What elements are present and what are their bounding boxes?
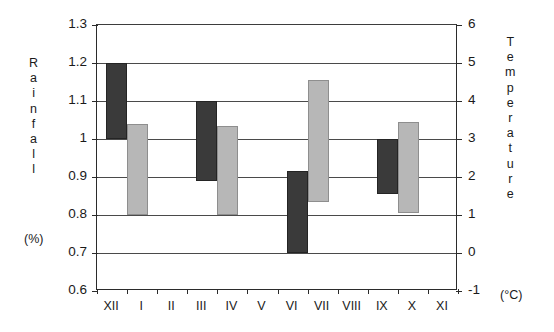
rainfall-bar: [377, 139, 398, 194]
y-axis-right-tick-label: 3: [468, 131, 508, 145]
x-axis-tick: [308, 289, 309, 294]
y-axis-left-tick-label: 0.7: [45, 245, 87, 259]
x-axis-tick: [398, 289, 399, 294]
y-axis-left-tick-label: 0.9: [45, 169, 87, 183]
y-axis-right-tick-label: -1: [468, 283, 508, 297]
y-axis-left-tick-label: 0.6: [45, 283, 87, 297]
caption-letter: r: [508, 111, 512, 126]
y-axis-left-tick: [92, 177, 98, 178]
caption-letter: r: [508, 172, 512, 187]
y-axis-right-tick-label: 1: [468, 207, 508, 221]
y-axis-right-tick: [456, 25, 462, 26]
rainfall-bar: [196, 101, 217, 181]
y-axis-left-tick: [92, 101, 98, 102]
y-axis-right-tick-label: 5: [468, 55, 508, 69]
y-axis-left-title: Rainfall: [29, 56, 38, 178]
y-axis-left-tick: [92, 139, 98, 140]
caption-letter: e: [507, 187, 514, 202]
temperature-bar: [217, 126, 238, 215]
caption-letter: f: [32, 117, 35, 132]
caption-letter: l: [32, 147, 35, 162]
y-axis-left-tick: [92, 25, 98, 26]
x-axis-tick: [217, 289, 218, 294]
temperature-bar: [308, 80, 329, 202]
rainfall-bar: [287, 171, 308, 253]
caption-letter: T: [506, 35, 514, 50]
x-axis-tick: [428, 289, 429, 294]
gridline: [97, 101, 456, 102]
x-axis-tick: [157, 289, 158, 294]
caption-letter: n: [30, 102, 37, 117]
y-axis-left-tick: [92, 253, 98, 254]
caption-letter: a: [30, 132, 37, 147]
caption-letter: a: [30, 71, 37, 86]
temperature-bar: [398, 122, 419, 213]
rainfall-bar: [106, 63, 127, 139]
y-axis-right-tick: [456, 215, 462, 216]
x-axis-tick: [338, 289, 339, 294]
gridline: [97, 253, 456, 254]
y-axis-left-tick-label: 1: [45, 131, 87, 145]
y-axis-right-tick: [456, 101, 462, 102]
rainfall-temperature-chart: Rainfall (%) Temperature (°C) 1.31.21.11…: [0, 0, 554, 332]
y-axis-left-tick-label: 1.1: [45, 93, 87, 107]
y-axis-right-tick: [456, 253, 462, 254]
caption-letter: l: [32, 162, 35, 177]
x-axis-tick: [368, 289, 369, 294]
x-axis-tick: [247, 289, 248, 294]
y-axis-right-tick: [456, 139, 462, 140]
y-axis-left-unit: (%): [24, 232, 43, 246]
y-axis-right-tick-label: 6: [468, 17, 508, 31]
y-axis-left-tick-label: 1.3: [45, 17, 87, 31]
gridline: [97, 215, 456, 216]
y-axis-right-tick-label: 0: [468, 245, 508, 259]
temperature-bar: [127, 124, 148, 215]
y-axis-left-tick-label: 1.2: [45, 55, 87, 69]
y-axis-right-tick-label: 2: [468, 169, 508, 183]
y-axis-right-tick: [456, 63, 462, 64]
y-axis-left-tick-label: 0.8: [45, 207, 87, 221]
x-axis-tick: [278, 289, 279, 294]
caption-letter: t: [508, 141, 511, 156]
x-axis-tick: [97, 289, 98, 294]
y-axis-left-tick: [92, 63, 98, 64]
caption-letter: R: [29, 56, 38, 71]
x-axis-tick: [187, 289, 188, 294]
x-axis-tick: [458, 289, 459, 294]
y-axis-right-tick-label: 4: [468, 93, 508, 107]
y-axis-left-tick: [92, 215, 98, 216]
y-axis-right-tick: [456, 177, 462, 178]
x-axis-tick: [127, 289, 128, 294]
y-axis-right-tick: [456, 291, 462, 292]
x-axis-tick-label: XI: [422, 299, 462, 313]
plot-area: [96, 24, 457, 290]
gridline: [97, 63, 456, 64]
caption-letter: i: [32, 86, 35, 101]
